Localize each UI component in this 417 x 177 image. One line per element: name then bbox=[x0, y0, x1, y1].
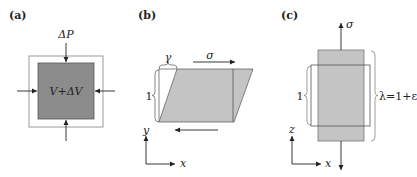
panel-a: (a) V+ΔV ΔP bbox=[9, 9, 115, 141]
panel-a-label: (a) bbox=[9, 9, 27, 22]
stress-label: σ bbox=[206, 49, 214, 62]
stretch-label: λ=1+ε bbox=[379, 90, 417, 103]
deformation-diagram: (a) V+ΔV ΔP (b) γ 1 σ y x (c) σ 1 bbox=[0, 0, 417, 177]
axis-z-label: z bbox=[288, 123, 295, 136]
axis-x-label-c: x bbox=[325, 157, 332, 170]
axis-x-label: x bbox=[180, 157, 187, 170]
gamma-label: γ bbox=[165, 51, 172, 64]
stretch-brace bbox=[371, 51, 378, 141]
unit-length-label-c: 1 bbox=[297, 90, 304, 103]
panel-c: (c) σ 1 λ=1+ε z x bbox=[281, 9, 417, 170]
panel-c-label: (c) bbox=[281, 9, 298, 22]
stretched-body bbox=[318, 50, 364, 141]
pressure-label: ΔP bbox=[57, 28, 74, 41]
unit-length-brace bbox=[152, 70, 159, 122]
unit-length-brace-c bbox=[304, 66, 311, 125]
panel-b: (b) γ 1 σ y x bbox=[138, 9, 253, 170]
panel-b-label: (b) bbox=[138, 9, 156, 22]
unit-length-label: 1 bbox=[146, 90, 153, 103]
sheared-body bbox=[159, 69, 253, 122]
stress-label-c: σ bbox=[346, 18, 354, 31]
axis-y-label: y bbox=[142, 124, 150, 137]
volume-label: V+ΔV bbox=[49, 85, 83, 98]
